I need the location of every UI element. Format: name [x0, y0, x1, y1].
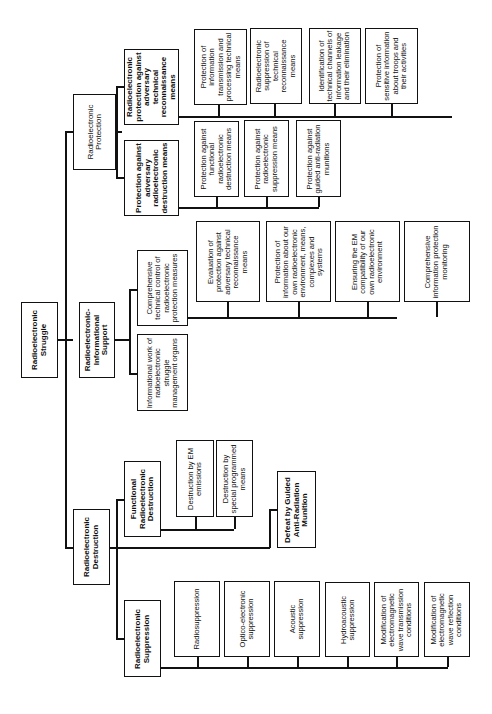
leaf-node: Modification of electromagnetic wave tra… [374, 582, 419, 657]
node-label: Optico-electronic suppression [239, 584, 256, 654]
connector [116, 547, 270, 549]
node-functional-destruction: Functional Radioelectronic Destruction [124, 461, 161, 537]
node-label: Acoustic suppression [289, 584, 306, 654]
node-label: Modification of electromagnetic wave tra… [380, 584, 414, 656]
connector [247, 656, 249, 667]
node-label: Informational work of radioelectronic st… [146, 337, 180, 409]
node-guided-anti-radiation: Defeat by Guided Anti-Radiation Munition [277, 471, 316, 548]
leaf-node: Radioelectronic suppression of technical… [250, 28, 302, 104]
leaf-node: Radiosuppression [174, 581, 220, 657]
node-label: Radioelectronic-Informational Support [84, 305, 110, 375]
connector [65, 547, 73, 549]
node-label: Radioelectronic Struggle [31, 305, 48, 375]
connector [396, 656, 398, 667]
node-label: Radioelectronic suppression of technical… [255, 30, 297, 102]
connector [318, 196, 320, 207]
node-label: Destruction by EM emissions [187, 444, 204, 514]
node-label: Ensuring the EM compatibility of our own… [351, 224, 385, 300]
node-label: Evaluation of protection against adversa… [207, 224, 249, 300]
connector [178, 207, 319, 209]
leaf-node: Protection against radioelectronic suppr… [244, 120, 289, 197]
connector [266, 196, 268, 207]
leaf-node: Destruction by EM emissions [176, 440, 214, 517]
node-label: Protection against guided anti-radiation… [306, 123, 331, 195]
root-node: Radioelectronic Struggle [21, 302, 58, 378]
connector [129, 373, 137, 375]
node-protection-destruction: Protection against adversary radioelectr… [124, 140, 179, 216]
leaf-node: Evaluation of protection against adversa… [196, 221, 260, 302]
connector [129, 289, 131, 373]
connector [347, 656, 349, 667]
connector [116, 86, 118, 177]
leaf-node: Destruction by special programmed means [216, 440, 253, 517]
node-label: Radiosuppression [193, 584, 201, 654]
node-label: Defeat by Guided Anti-Radiation Munition [284, 475, 310, 545]
connector [187, 317, 397, 319]
connector [334, 104, 336, 116]
leaf-node: Protection of sensitive information abou… [365, 28, 418, 104]
leaf-node: Modification of electromagnetic wave ref… [424, 582, 470, 657]
connector [116, 177, 124, 179]
connector [160, 667, 448, 669]
node-label: Destruction by special programmed means [222, 444, 247, 514]
connector [129, 289, 137, 291]
node-informational-work: Informational work of radioelectronic st… [137, 334, 188, 411]
connector [115, 339, 130, 341]
connector [195, 516, 197, 529]
connector [116, 499, 124, 501]
node-label: Radioelectronic Destruction [83, 512, 100, 582]
connector [436, 301, 438, 317]
connector [274, 104, 276, 116]
node-protection-recon: Radioelectronic protection against adver… [124, 49, 179, 125]
leaf-node: Acoustic suppression [274, 581, 320, 657]
connector [269, 509, 271, 548]
node-label: Comprehensive information protection mon… [424, 224, 449, 300]
connector [298, 301, 300, 317]
leaf-node: Protection against guided anti-radiation… [296, 120, 341, 197]
node-radioelectronic-suppression: Radioelectronic Suppression [124, 600, 161, 677]
node-label: Protection of information transmission a… [199, 31, 241, 103]
connector [367, 301, 369, 317]
connector [216, 196, 218, 207]
connector [178, 116, 452, 118]
leaf-node: Hydroacoustic suppression [325, 582, 370, 657]
node-label: Protection of sensitive information abou… [375, 30, 409, 102]
node-label: Protection of information about our own … [273, 223, 323, 301]
leaf-node: Comprehensive information protection mon… [404, 221, 470, 302]
node-label: Radioelectronic Protection [86, 97, 103, 167]
connector [269, 509, 277, 511]
node-label: Hydroacoustic suppression [339, 585, 356, 655]
node-comprehensive-technical-control: Comprehensive technical control of radio… [137, 250, 188, 326]
node-radioelectronic-informational-support: Radioelectronic-Informational Support [79, 302, 115, 378]
node-label: Radioelectronic Suppression [134, 604, 151, 674]
node-label: Radioelectronic protection against adver… [126, 51, 178, 123]
connector [447, 656, 449, 667]
connector [116, 86, 124, 88]
leaf-node: Protection against functional radioelect… [194, 121, 239, 197]
connector [218, 104, 220, 116]
node-radioelectronic-protection: Radioelectronic Protection [73, 94, 116, 170]
node-label: Identification of technical channels of … [318, 30, 352, 102]
node-label: Modification of electromagnetic wave ref… [430, 584, 464, 656]
node-label: Protection against radioelectronic suppr… [254, 123, 279, 195]
connector [65, 339, 73, 341]
connector [160, 529, 234, 531]
node-label: Protection against functional radioelect… [200, 123, 234, 195]
node-label: Comprehensive technical control of radio… [146, 252, 180, 324]
connector [234, 516, 236, 529]
connector [297, 656, 299, 667]
node-radioelectronic-destruction: Radioelectronic Destruction [73, 509, 110, 585]
leaf-node: Identification of technical channels of … [309, 28, 361, 104]
leaf-node: Protection of information transmission a… [194, 29, 247, 105]
node-label: Functional Radioelectronic Destruction [130, 464, 156, 534]
connector [116, 499, 118, 638]
connector [391, 104, 393, 116]
leaf-node: Protection of information about our own … [266, 221, 331, 302]
connector [227, 301, 229, 317]
leaf-node: Ensuring the EM compatibility of our own… [335, 221, 400, 302]
connector [116, 638, 124, 640]
connector [197, 656, 199, 667]
leaf-node: Optico-electronic suppression [224, 581, 270, 657]
connector [65, 131, 73, 133]
node-label: Protection against adversary radioelectr… [134, 142, 168, 214]
